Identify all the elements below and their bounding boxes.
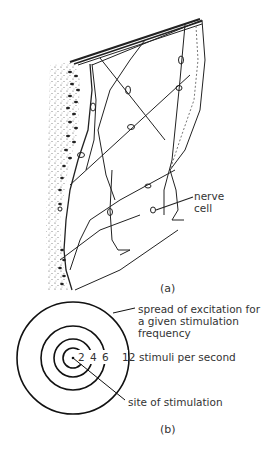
- spread-excitation-label: spread of excitation for a given stimula…: [138, 303, 260, 339]
- site-of-stimulation-label: site of stimulation: [128, 396, 223, 408]
- spread-label-line3: frequency: [138, 327, 260, 339]
- caption-b: (b): [160, 423, 176, 436]
- concentric-rings-diagram: [0, 0, 261, 452]
- ring-value-6: 6: [102, 351, 109, 363]
- spread-label-line1: spread of excitation for: [138, 303, 260, 315]
- ring-value-12: 12: [122, 351, 135, 363]
- spread-label-line2: a given stimulation: [138, 315, 260, 327]
- ring-value-2: 2: [78, 351, 85, 363]
- ring-unit-label: stimuli per second: [139, 351, 236, 363]
- ring-value-4: 4: [90, 351, 97, 363]
